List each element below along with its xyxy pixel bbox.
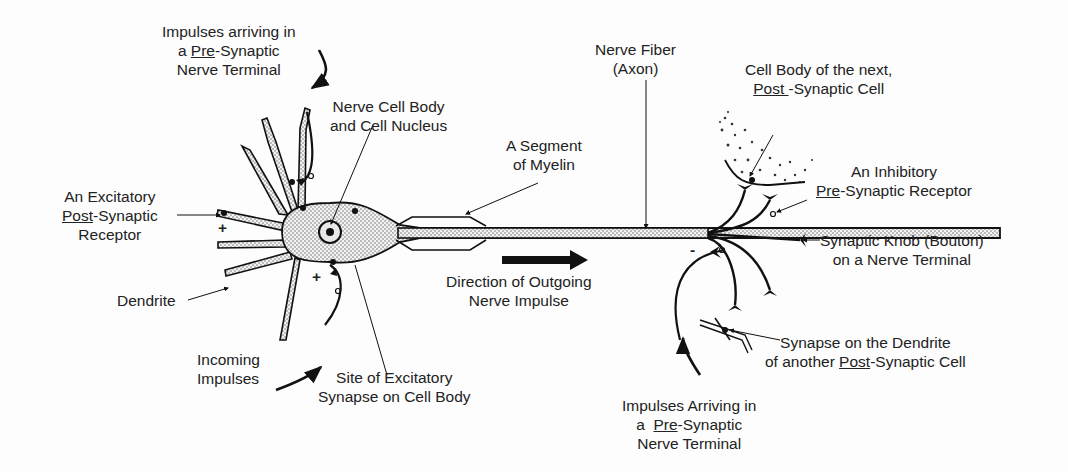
synaptic-knobs xyxy=(710,184,806,311)
label-text: -Synaptic xyxy=(93,207,158,224)
label-line: Incoming xyxy=(197,350,260,369)
label-line: An Excitatory xyxy=(62,187,158,206)
label-direction: Direction of Outgoing Nerve Impulse xyxy=(446,272,592,310)
direction-arrow xyxy=(502,250,588,270)
label-line: Nerve Terminal xyxy=(622,434,756,453)
label-line: Receptor xyxy=(62,225,158,244)
label-line: A Segment xyxy=(506,136,582,155)
label-synapse-dendrite: Synapse on the Dendrite of another Post-… xyxy=(765,333,966,371)
label-line: a Pre-Synaptic xyxy=(622,415,756,434)
label-text: -Synaptic Cell xyxy=(870,353,966,370)
label-next-cell: Cell Body of the next, Post -Synaptic Ce… xyxy=(745,60,892,98)
label-line: Nerve Fiber xyxy=(595,40,676,59)
plus-sign: + xyxy=(218,218,227,237)
label-cell-body: Nerve Cell Body and Cell Nucleus xyxy=(330,97,447,135)
label-pre-synaptic-bottom: Impulses Arriving in a Pre-Synaptic Nerv… xyxy=(622,396,756,453)
label-line: Pre-Synaptic Receptor xyxy=(816,181,972,200)
label-dendrite: Dendrite xyxy=(117,291,176,310)
label-line: Post-Synaptic xyxy=(62,206,158,225)
label-incoming-impulses: Incoming Impulses xyxy=(197,350,260,388)
label-text: -Synaptic Cell xyxy=(789,80,885,97)
label-line: of another Post-Synaptic Cell xyxy=(765,352,966,371)
label-line: on a Nerve Terminal xyxy=(820,250,984,269)
axon xyxy=(398,228,708,238)
label-inhibitory: An Inhibitory Pre-Synaptic Receptor xyxy=(816,162,972,200)
label-line: Nerve Cell Body xyxy=(330,97,447,116)
label-underlined: Post xyxy=(62,207,93,224)
label-underlined: Post xyxy=(839,353,870,370)
label-text: -Synaptic xyxy=(678,416,743,433)
label-underlined: Pre xyxy=(653,416,677,433)
label-line: Impulses Arriving in xyxy=(622,396,756,415)
label-line: Synapse on Cell Body xyxy=(318,387,471,406)
minus-sign: - xyxy=(690,240,695,259)
label-underlined: Pre xyxy=(191,42,215,59)
label-line: Site of Excitatory xyxy=(318,368,471,387)
label-text: a xyxy=(636,416,653,433)
label-excitatory-receptor: An Excitatory Post-Synaptic Receptor xyxy=(62,187,158,244)
label-line: Nerve Terminal xyxy=(162,60,296,79)
label-underlined: Post xyxy=(753,80,788,97)
label-line: Direction of Outgoing xyxy=(446,272,592,291)
neuron-diagram: Impulses arriving in a Pre-Synaptic Nerv… xyxy=(0,0,1068,472)
label-line: Cell Body of the next, xyxy=(745,60,892,79)
label-text: a xyxy=(178,42,191,59)
label-text: -Synaptic Receptor xyxy=(840,182,972,199)
label-line: Post -Synaptic Cell xyxy=(745,79,892,98)
label-synaptic-knob: Synaptic Knob (Bouton) on a Nerve Termin… xyxy=(820,231,984,269)
label-pre-synaptic-top: Impulses arriving in a Pre-Synaptic Nerv… xyxy=(162,22,296,79)
plus-sign: + xyxy=(312,267,321,286)
label-line: Nerve Impulse xyxy=(446,291,592,310)
label-line: a Pre-Synaptic xyxy=(162,41,296,60)
label-myelin: A Segment of Myelin xyxy=(506,136,582,174)
label-nerve-fiber: Nerve Fiber (Axon) xyxy=(595,40,676,78)
label-line: Impulses arriving in xyxy=(162,22,296,41)
label-underlined: Pre xyxy=(816,182,840,199)
label-line: and Cell Nucleus xyxy=(330,116,447,135)
label-site-excitatory: Site of Excitatory Synapse on Cell Body xyxy=(318,368,471,406)
label-text: of another xyxy=(765,353,839,370)
label-line: of Myelin xyxy=(506,155,582,174)
label-line: An Inhibitory xyxy=(816,162,972,181)
label-line: (Axon) xyxy=(595,59,676,78)
label-text: -Synaptic xyxy=(215,42,280,59)
label-line: Synaptic Knob (Bouton) xyxy=(820,231,984,250)
label-line: Synapse on the Dendrite xyxy=(765,333,966,352)
label-line: Impulses xyxy=(197,369,260,388)
